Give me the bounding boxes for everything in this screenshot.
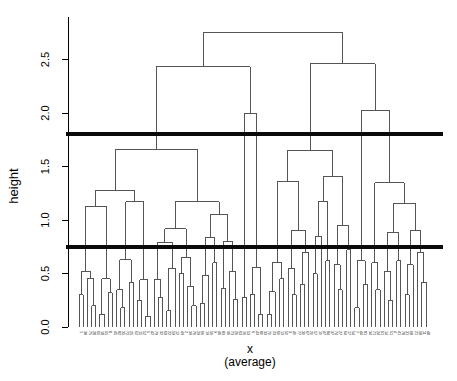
leaf-label: 39 xyxy=(188,331,192,335)
dendrogram-figure: 0.00.51.01.52.02.51387528651855845823572… xyxy=(0,0,457,381)
leaf-label: 79 xyxy=(154,331,158,335)
leaf-label: 23 xyxy=(272,331,276,335)
leaf-label: 62 xyxy=(134,331,138,335)
leaf-label: 52 xyxy=(142,331,146,335)
leaf-label: 60 xyxy=(276,331,280,335)
leaf-label: 65 xyxy=(96,331,100,335)
leaf-label: 6 xyxy=(251,331,255,333)
dendrogram-canvas: 0.00.51.01.52.02.51387528651855845823572… xyxy=(0,0,457,381)
leaf-label: 70 xyxy=(267,331,271,335)
leaf-label: 72 xyxy=(125,331,129,335)
leaf-label: 5 xyxy=(146,331,150,333)
leaf-label: 27 xyxy=(338,331,342,335)
y-tick-label: 2.0 xyxy=(39,105,51,120)
leaf-label: 54 xyxy=(351,331,355,335)
leaf-label: 83 xyxy=(221,331,225,335)
leaf-label: 58 xyxy=(418,331,422,335)
leaf-label: 3 xyxy=(288,331,292,333)
leaf-label: 8 xyxy=(108,331,112,333)
leaf-label: 14 xyxy=(384,331,388,335)
leaf-label: 50 xyxy=(284,331,288,335)
leaf-label: 68 xyxy=(409,331,413,335)
leaf-label: 59 xyxy=(171,331,175,335)
leaf-label: 17 xyxy=(347,331,351,335)
leaf-label: 64 xyxy=(343,331,347,335)
leaf-label: 57 xyxy=(313,331,317,335)
leaf-label: 78 xyxy=(401,331,405,335)
leaf-label: 49 xyxy=(180,331,184,335)
leaf-label: 73 xyxy=(230,331,234,335)
leaf-label: 36 xyxy=(226,331,230,335)
leaf-label: 66 xyxy=(200,331,204,335)
leaf-label: 41 xyxy=(397,331,401,335)
leaf-label: 32 xyxy=(159,331,163,335)
y-tick-label: 1.5 xyxy=(39,159,51,174)
leaf-label: 40 xyxy=(292,331,296,335)
leaf-label: 20 xyxy=(309,331,313,335)
leaf-label: 9 xyxy=(213,331,217,333)
leaf-label: 74 xyxy=(334,331,338,335)
x-axis-subtitle: (average) xyxy=(224,355,275,369)
y-tick-label: 2.5 xyxy=(39,52,51,67)
leaf-label: 28 xyxy=(92,331,96,335)
leaf-label: 63 xyxy=(238,331,242,335)
y-tick-label: 0.0 xyxy=(39,319,51,334)
leaf-label: 48 xyxy=(426,331,430,335)
leaf-label: 76 xyxy=(192,331,196,335)
leaf-label: 42 xyxy=(150,331,154,335)
leaf-label: 18 xyxy=(100,331,104,335)
leaf-label: 4 xyxy=(393,331,397,333)
leaf-label: 75 xyxy=(88,331,92,335)
leaf-label: 21 xyxy=(414,331,418,335)
x-axis-title: x xyxy=(247,342,253,356)
leaf-label: 80 xyxy=(259,331,263,335)
leaf-label: 56 xyxy=(209,331,213,335)
y-tick-label: 1.0 xyxy=(39,212,51,227)
leaf-label: 11 xyxy=(422,331,426,335)
leaf-label: 26 xyxy=(234,331,238,335)
leaf-label: 2 xyxy=(184,331,188,333)
leaf-label: 34 xyxy=(368,331,372,335)
leaf-label: 37 xyxy=(330,331,334,335)
leaf-label: 46 xyxy=(217,331,221,335)
leaf-label: 69 xyxy=(163,331,167,335)
leaf-label: 77 xyxy=(297,331,301,335)
leaf-label: 53 xyxy=(246,331,250,335)
leaf-label: 81 xyxy=(363,331,367,335)
leaf-label: 1 xyxy=(79,331,83,333)
leaf-label: 15 xyxy=(138,331,142,335)
leaf-label: 45 xyxy=(113,331,117,335)
y-axis-title: height xyxy=(6,168,21,203)
y-tick-label: 0.5 xyxy=(39,266,51,281)
leaf-label: 30 xyxy=(301,331,305,335)
leaf-label: 25 xyxy=(129,331,133,335)
leaf-label: 10 xyxy=(318,331,322,335)
leaf-label: 61 xyxy=(380,331,384,335)
leaf-label: 38 xyxy=(83,331,87,335)
leaf-label: 12 xyxy=(175,331,179,335)
leaf-label: 29 xyxy=(196,331,200,335)
leaf-label: 35 xyxy=(121,331,125,335)
leaf-label: 16 xyxy=(242,331,246,335)
leaf-label: 13 xyxy=(280,331,284,335)
leaf-label: 84 xyxy=(326,331,330,335)
leaf-label: 51 xyxy=(389,331,393,335)
leaf-label: 67 xyxy=(305,331,309,335)
leaf-label: 44 xyxy=(359,331,363,335)
leaf-label: 71 xyxy=(372,331,376,335)
leaf-label: 82 xyxy=(117,331,121,335)
leaf-label: 47 xyxy=(322,331,326,335)
leaf-label: 19 xyxy=(205,331,209,335)
leaf-label: 55 xyxy=(104,331,108,335)
leaf-label: 43 xyxy=(255,331,259,335)
leaf-label: 31 xyxy=(405,331,409,335)
leaf-label: 22 xyxy=(167,331,171,335)
leaf-label: 24 xyxy=(376,331,380,335)
leaf-label: 33 xyxy=(263,331,267,335)
leaf-label: 7 xyxy=(355,331,359,333)
